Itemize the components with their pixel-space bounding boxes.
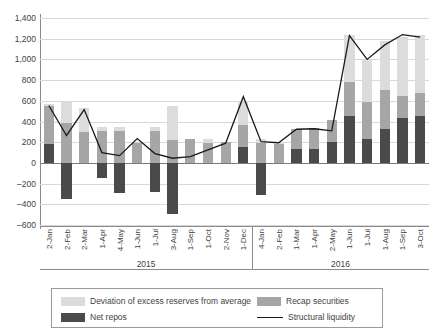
x-axis-tick-label: 2-Mar <box>80 229 89 250</box>
legend-label-deviation: Deviation of excess reserves from averag… <box>90 296 251 306</box>
chart-figure: 1,4001,2001,0008006004002000–200–400–600… <box>0 0 434 335</box>
x-axis-tick-label: 1-Apr <box>98 229 107 249</box>
legend-swatch-recap <box>257 297 281 306</box>
legend-item-net-repos: Net repos <box>61 312 127 322</box>
x-axis-group-label: 2016 <box>252 259 429 269</box>
y-axis-tick: 600 <box>22 97 36 106</box>
x-axis-tick-label: 3-Oct <box>416 229 425 249</box>
x-axis-tick-label: 2-Jan <box>45 229 54 249</box>
legend-swatch-deviation <box>61 297 85 306</box>
x-axis-tick-label: 2-Feb <box>63 229 72 250</box>
y-axis-tick: 1,200 <box>15 34 36 43</box>
x-axis-group-label: 2015 <box>40 259 252 269</box>
legend-line-structural-liquidity <box>257 317 283 318</box>
x-axis-tick-label: 2-Nov <box>222 229 231 250</box>
plot-area: 1,4001,2001,0008006004002000–200–400–600… <box>0 0 434 282</box>
x-axis-tick-label: 1-Mar <box>292 229 301 250</box>
y-axis-tick: 1,400 <box>15 14 36 23</box>
y-axis-tick: –200 <box>17 179 36 188</box>
legend-item-structural-liquidity: Structural liquidity <box>257 312 355 322</box>
legend-item-deviation: Deviation of excess reserves from averag… <box>61 296 251 306</box>
y-axis-tick: –600 <box>17 221 36 230</box>
x-axis-labels: 2-Jan2-Feb2-Mar1-Apr4-May1-Jun1-Jul3-Aug… <box>40 226 429 270</box>
chart-legend: Deviation of excess reserves from averag… <box>51 288 383 328</box>
x-axis-tick-label: 1-Jul <box>363 229 372 246</box>
x-axis-tick-label: 4-May <box>116 229 125 251</box>
x-axis-tick-label: 1-Sep <box>186 229 195 250</box>
x-axis-tick-label: 2-May <box>328 229 337 251</box>
x-axis-tick-label: 2-Feb <box>275 229 284 250</box>
legend-label-recap: Recap securities <box>286 296 349 306</box>
x-axis-tick-label: 3-Aug <box>169 229 178 250</box>
x-axis-tick-label: 1-Apr <box>310 229 319 249</box>
legend-label-net-repos: Net repos <box>90 312 127 322</box>
legend-item-recap: Recap securities <box>257 296 349 306</box>
y-axis-tick: 1,000 <box>15 55 36 64</box>
x-axis-tick-label: 1-Dec <box>239 229 248 250</box>
y-axis-tick: –400 <box>17 200 36 209</box>
plot-canvas <box>40 18 429 225</box>
legend-swatch-net-repos <box>61 313 85 322</box>
x-axis-tick-label: 1-Oct <box>204 229 213 249</box>
y-axis-tick-labels: 1,4001,2001,0008006004002000–200–400–600 <box>0 18 38 225</box>
x-axis-tick-label: 4-Jan <box>257 229 266 249</box>
y-axis-tick: 0 <box>31 159 36 168</box>
x-axis-group-separator <box>252 227 253 269</box>
y-axis-tick: 400 <box>22 117 36 126</box>
y-axis-tick: 200 <box>22 138 36 147</box>
x-axis-tick-label: 1-Sep <box>398 229 407 250</box>
x-axis-tick-label: 1-Jun <box>133 229 142 249</box>
x-axis-tick-label: 1-Aug <box>381 229 390 250</box>
x-axis-tick-label: 1-Jun <box>345 229 354 249</box>
legend-label-structural-liquidity: Structural liquidity <box>288 312 355 322</box>
structural-liquidity-line <box>40 18 429 225</box>
y-axis-tick: 800 <box>22 76 36 85</box>
x-axis-tick-label: 1-Jul <box>151 229 160 246</box>
